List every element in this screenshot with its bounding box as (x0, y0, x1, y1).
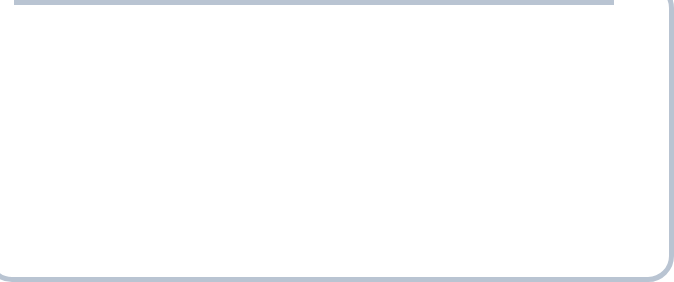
chart-b-svg: 1,600,0001,400,0001,200,0001,000,000800,… (330, 8, 660, 224)
x-axis-title: Year (300, 196, 320, 207)
x-tick-label: 1965 (86, 185, 105, 195)
y-axis-title: Value in millions of dollars (333, 40, 344, 160)
x-tick-label: 1985 (182, 185, 201, 195)
exhibit-number: Exhibit 8.11 (163, 237, 224, 249)
exhibit-title: Changing Trading Patterns for Manufactur… (226, 237, 497, 249)
x-axis-title: Year (632, 196, 652, 207)
y-tick-label: 800,000 (373, 98, 406, 108)
x-tick-label: 1960 (62, 185, 81, 195)
chart-panel-a: $600,000500,000400,000300,000200,000100,… (0, 8, 330, 224)
x-tick-label: 1970 (110, 185, 129, 195)
x-tick-label: 1965 (426, 185, 445, 195)
chart-panel-b: 1,600,0001,400,0001,200,0001,000,000800,… (330, 8, 660, 224)
x-tick-label: 1970 (450, 185, 469, 195)
y-tick-label: 1,200,000 (366, 60, 406, 70)
y-tick-label: 200,000 (33, 123, 66, 133)
x-tick-label: 1995 (570, 185, 589, 195)
x-tick-label: 1975 (474, 185, 493, 195)
x-tick-label: 1990 (206, 185, 225, 195)
x-tick-label: 1960 (402, 185, 421, 195)
y-tick-label: 600,000 (373, 117, 406, 127)
series-annotation: China (619, 34, 646, 45)
x-tick-label: 2010 (301, 185, 320, 195)
y-tick-label: 400,000 (373, 135, 406, 145)
y-tick-label: 1,000,000 (366, 79, 406, 89)
series-annotation: United (577, 114, 607, 125)
x-tick-label: 1995 (229, 185, 248, 195)
series-line-united-states (412, 53, 652, 165)
x-tick-label: 2010 (642, 185, 660, 195)
y-tick-label: 100,000 (33, 148, 66, 158)
series-line-imports (72, 33, 320, 171)
y-tick-label: 300,000 (33, 98, 66, 108)
x-tick-label: 2000 (594, 185, 613, 195)
x-tick-label: 2005 (618, 185, 637, 195)
y-axis-title: Value in millions of dollars (3, 40, 14, 160)
x-tick-label: 1980 (498, 185, 517, 195)
series-annotation: Exports (257, 105, 293, 116)
panel-b-caption: (b) Exports of manufactured goods 1960–2… (330, 220, 660, 231)
panel-a-caption: (a) U.S. exports and imports of manufact… (0, 220, 326, 231)
series-annotation: United States (540, 87, 601, 98)
x-tick-label: 2000 (253, 185, 272, 195)
y-tick-label: 1,600,000 (366, 22, 406, 32)
y-tick-label: 1,400,000 (366, 41, 406, 51)
exhibit-caption: Exhibit 8.11 Changing Trading Patterns f… (0, 237, 660, 249)
x-tick-label: 1985 (522, 185, 541, 195)
x-tick-label: 1975 (134, 185, 153, 195)
y-tick-label: 500,000 (33, 47, 66, 57)
x-tick-label: 1980 (158, 185, 177, 195)
series-annotation: Kingdom (571, 126, 613, 137)
y-tick-label: $600,000 (28, 22, 66, 32)
y-tick-label: 200,000 (373, 154, 406, 164)
chart-a-svg: $600,000500,000400,000300,000200,000100,… (0, 8, 330, 224)
series-annotation: Imports (217, 70, 252, 81)
x-tick-label: 2005 (277, 185, 296, 195)
x-tick-label: 1990 (546, 185, 565, 195)
y-tick-label: 400,000 (33, 73, 66, 83)
